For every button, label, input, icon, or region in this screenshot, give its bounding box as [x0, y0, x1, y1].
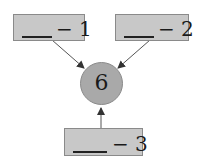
box-1-label: − 1 — [56, 19, 92, 39]
center-circle: 6 — [80, 62, 123, 105]
box-2: − 2 — [115, 14, 189, 41]
box-3: − 3 — [64, 128, 143, 156]
box-3-label: − 3 — [112, 134, 148, 154]
blank-line-3[interactable] — [73, 151, 107, 153]
box-2-label: − 2 — [158, 19, 194, 39]
blank-line-1[interactable] — [22, 36, 52, 38]
arrow-1 — [52, 40, 84, 68]
box-1: − 1 — [13, 14, 85, 41]
blank-line-2[interactable] — [124, 36, 154, 38]
center-value: 6 — [81, 72, 122, 94]
diagram-canvas: − 1 − 2 − 3 6 — [0, 0, 202, 162]
arrow-2 — [118, 40, 150, 68]
